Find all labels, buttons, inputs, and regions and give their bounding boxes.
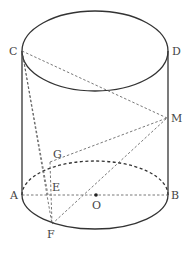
- label-M: M: [171, 112, 182, 125]
- segment-CE: [22, 51, 48, 195]
- segment-GM: [50, 118, 167, 162]
- cylinder-diagram: C D M G A E O B F: [0, 0, 190, 255]
- center-point-O: [94, 193, 98, 197]
- label-D: D: [172, 45, 181, 58]
- segment-CM: [22, 51, 167, 118]
- top-ellipse: [22, 11, 168, 91]
- label-F: F: [47, 228, 55, 241]
- label-C: C: [9, 45, 17, 58]
- label-B: B: [171, 189, 179, 202]
- label-O: O: [92, 199, 101, 212]
- bottom-ellipse-back: [22, 161, 168, 195]
- label-A: A: [9, 189, 19, 202]
- segment-CF: [22, 51, 52, 224]
- segment-FM: [52, 118, 167, 224]
- label-E: E: [52, 181, 60, 194]
- label-G: G: [53, 148, 62, 161]
